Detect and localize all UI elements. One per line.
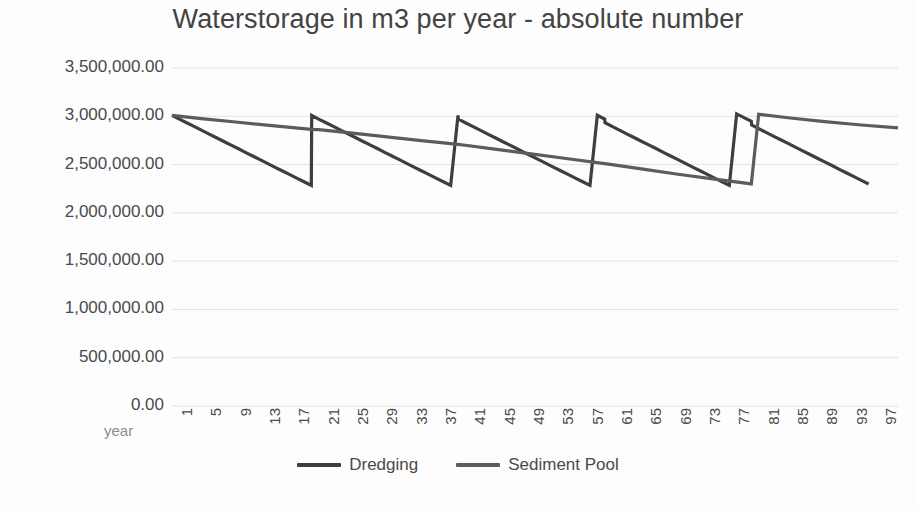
x-axis-tick-label: 65 [647,408,664,425]
x-axis-tick-label: 41 [471,408,488,425]
x-axis-tick-label: 49 [530,408,547,425]
series-line-sediment-pool [172,114,898,184]
x-axis-tick-label: 73 [706,408,723,425]
legend-label: Sediment Pool [508,455,619,475]
legend-line-swatch-icon [297,463,341,467]
legend-item-dredging[interactable]: Dredging [297,455,418,475]
x-axis-tick-label: 81 [765,408,782,425]
x-axis-tick-label: 25 [354,408,371,425]
chart-legend: DredgingSediment Pool [0,455,916,475]
x-axis-tick-label: 61 [618,408,635,425]
x-axis-tick-label: 33 [413,408,430,425]
x-axis-tick-label: 77 [735,408,752,425]
x-axis-tick-label: 97 [882,408,899,425]
x-axis-tick-label: 45 [501,408,518,425]
x-axis-tick-label: 1 [178,408,195,416]
data-series-layer [172,114,898,185]
x-axis-tick-label: 85 [794,408,811,425]
x-axis-tick-label: 29 [383,408,400,425]
chart-container: Waterstorage in m3 per year - absolute n… [0,0,916,510]
legend-line-swatch-icon [456,463,500,467]
x-axis-tick-label: 57 [589,408,606,425]
x-axis-tick-label: 37 [442,408,459,425]
x-axis-tick-label: 17 [295,408,312,425]
x-axis-tick-labels: year 15913172125293337414549535761656973… [0,404,916,454]
x-axis-tick-label: 9 [237,408,254,416]
x-axis-tick-label: 13 [266,408,283,425]
legend-item-sediment-pool[interactable]: Sediment Pool [456,455,619,475]
x-axis-title: year [104,422,133,439]
x-axis-tick-label: 5 [207,408,224,416]
x-axis-tick-label: 53 [559,408,576,425]
legend-label: Dredging [349,455,418,475]
x-axis-tick-label: 93 [853,408,870,425]
x-axis-tick-label: 69 [677,408,694,425]
x-axis-tick-label: 21 [325,408,342,425]
x-axis-tick-label: 89 [823,408,840,425]
